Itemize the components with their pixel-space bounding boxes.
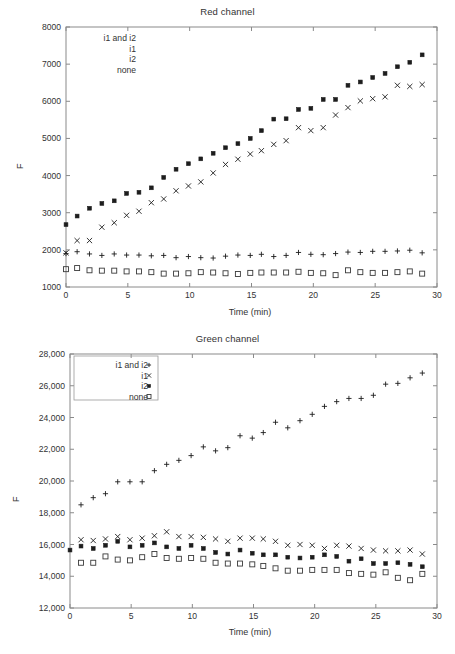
series-i2 (68, 539, 424, 568)
legend-label: i1 (141, 371, 148, 381)
legend-label: none (117, 65, 136, 75)
series-i1-and-i2 (63, 248, 424, 261)
red-channel-figure: Red channel 0510152025301000200030004000… (0, 0, 455, 327)
series-none (64, 266, 425, 278)
legend-filled-square-marker (147, 384, 150, 387)
x-tick-label: 5 (125, 290, 130, 300)
x-tick-label: 25 (370, 290, 380, 300)
y-tick-label: 14,000 (39, 571, 66, 581)
y-tick-label: 3000 (42, 208, 61, 218)
x-tick-label: 30 (432, 290, 442, 300)
green-channel-figure: Green channel 05101520253012,00014,00016… (0, 327, 455, 654)
y-tick-label: 8000 (42, 22, 61, 32)
red-plot-area: 0510152025301000200030004000500060007000… (0, 0, 455, 327)
y-tick-label: 20,000 (39, 476, 66, 486)
y-tick-label: 7000 (42, 59, 61, 69)
legend-label: i1 and i2 (104, 33, 137, 43)
x-tick-label: 5 (129, 611, 134, 621)
y-tick-label: 2000 (42, 245, 61, 255)
legend-label: i1 (129, 44, 136, 54)
y-tick-label: 26,000 (39, 381, 66, 391)
y-tick-label: 18,000 (39, 508, 66, 518)
series-i1 (63, 82, 424, 255)
green-x-axis-label: Time (min) (65, 627, 435, 637)
red-y-axis-label: F (15, 145, 25, 169)
y-tick-label: 22,000 (39, 444, 66, 454)
legend-label: i1 and i2 (116, 360, 149, 370)
x-tick-label: 25 (371, 611, 381, 621)
y-tick-label: 5000 (42, 133, 61, 143)
green-plot-svg: 05101520253012,00014,00016,00018,00020,0… (0, 327, 455, 654)
x-tick-label: 0 (64, 290, 69, 300)
legend-label: none (129, 392, 148, 402)
x-tick-label: 15 (249, 611, 259, 621)
legend-label: i2 (129, 54, 136, 64)
x-tick-label: 0 (68, 611, 73, 621)
legend: i1 and i2i1i2none (104, 33, 137, 75)
x-tick-label: 20 (309, 290, 319, 300)
x-tick-label: 10 (185, 290, 195, 300)
y-tick-label: 16,000 (39, 540, 66, 550)
red-plot-svg: 0510152025301000200030004000500060007000… (0, 0, 455, 327)
green-y-axis-label: F (11, 478, 21, 502)
red-x-axis-label: Time (min) (65, 307, 435, 317)
y-tick-label: 24,000 (39, 413, 66, 423)
series-i2 (64, 53, 424, 227)
x-tick-label: 30 (432, 611, 442, 621)
y-tick-label: 28,000 (39, 349, 66, 359)
y-tick-label: 1000 (42, 282, 61, 292)
series-none (79, 552, 425, 583)
x-tick-label: 10 (188, 611, 198, 621)
y-tick-label: 12,000 (39, 603, 66, 613)
y-tick-label: 6000 (42, 96, 61, 106)
x-tick-label: 20 (310, 611, 320, 621)
green-plot-area: 05101520253012,00014,00016,00018,00020,0… (0, 327, 455, 654)
y-tick-label: 4000 (42, 171, 61, 181)
x-tick-label: 15 (247, 290, 257, 300)
legend: i1 and i2i1i2none (74, 356, 158, 402)
legend-label: i2 (141, 381, 148, 391)
